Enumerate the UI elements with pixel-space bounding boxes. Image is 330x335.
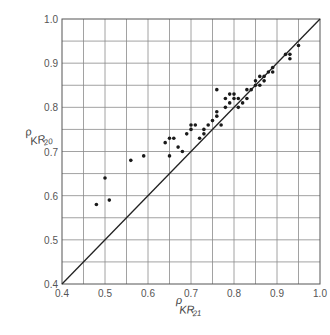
data-point [271,66,275,70]
data-point [288,57,292,61]
data-point [254,83,258,87]
data-point [215,114,219,118]
data-point [189,123,193,127]
data-point [228,92,232,96]
data-point [297,44,301,48]
data-point [194,123,198,127]
data-point [262,79,266,83]
data-point [228,101,232,105]
data-point [215,88,219,92]
data-point [168,136,172,140]
data-point [284,53,288,57]
data-point [219,123,223,127]
data-point [181,150,185,154]
y-tick-label: 0.6 [44,191,58,202]
data-point [232,92,236,96]
data-point [198,136,202,140]
data-point [142,154,146,158]
x-axis-label-21: 21 [191,309,201,319]
data-point [129,159,133,163]
data-point [232,97,236,101]
x-tick-label: 1.0 [313,288,327,299]
data-point [241,101,245,105]
data-point [245,97,249,101]
data-point [254,79,258,83]
x-tick-label: 0.6 [141,288,155,299]
data-point [211,119,215,123]
scatter-chart: 0.40.50.60.70.80.91.0 0.40.50.60.70.80.9… [0,0,330,335]
y-tick-label: 0.5 [44,235,58,246]
data-point [185,132,189,136]
y-tick-label: 0.4 [44,279,58,290]
y-tick-label: 0.9 [44,58,58,69]
data-point [163,141,167,145]
x-tick-label: 0.7 [184,288,198,299]
x-tick-label: 0.5 [98,288,112,299]
data-point [237,106,241,110]
data-point [249,88,253,92]
data-point [258,75,262,79]
data-point [172,136,176,140]
data-point [258,83,262,87]
y-tick-label: 0.7 [44,147,58,158]
data-point [176,145,180,149]
data-point [215,110,219,114]
data-point [262,75,266,79]
data-point [224,97,228,101]
y-axis-ticks: 0.40.50.60.70.80.91.0 [44,14,58,290]
x-tick-label: 0.8 [227,288,241,299]
data-point [202,132,206,136]
data-point [245,88,249,92]
data-point [95,203,99,207]
data-point [237,97,241,101]
data-point [189,128,193,132]
data-point [202,128,206,132]
data-point [267,70,271,74]
data-point [271,70,275,74]
x-axis-ticks: 0.40.50.60.70.80.91.0 [55,288,327,299]
data-point [206,123,210,127]
x-tick-label: 0.9 [270,288,284,299]
data-points [95,44,301,207]
data-point [224,106,228,110]
y-tick-label: 1.0 [44,14,58,25]
data-point [108,198,112,202]
data-point [103,176,107,180]
data-point [168,154,172,158]
y-tick-label: 0.8 [44,102,58,113]
data-point [288,53,292,57]
